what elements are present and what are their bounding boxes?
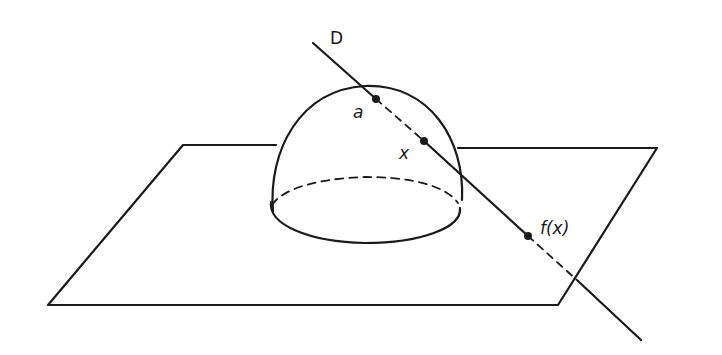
line-d-upper <box>313 43 376 99</box>
line-d-inside <box>376 99 424 141</box>
label-point-a: a <box>353 102 363 122</box>
hemisphere-base-back <box>272 177 458 205</box>
hemisphere-base-front <box>271 202 460 243</box>
label-line-d: D <box>330 28 343 48</box>
point-fx <box>524 232 532 240</box>
point-x <box>420 137 428 145</box>
line-d-lower <box>578 281 641 340</box>
label-point-fx: f(x) <box>540 218 569 238</box>
point-a <box>372 95 380 103</box>
diagram-canvas: D a x f(x) <box>0 0 722 355</box>
line-d-below-plane <box>528 236 578 281</box>
label-point-x: x <box>399 143 409 163</box>
diagram-svg <box>0 0 722 355</box>
